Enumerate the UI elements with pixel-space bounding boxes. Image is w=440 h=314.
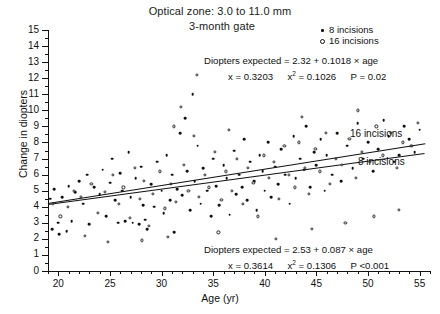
x-tick-minor [172,271,173,274]
data-point [278,197,281,200]
data-point [235,193,238,196]
data-point [158,170,161,173]
data-point [197,195,200,198]
data-point [51,228,54,231]
data-point [142,204,145,207]
y-tick-label: 4 [33,200,39,212]
data-point [372,170,375,173]
data-point [325,154,328,157]
data-point [148,224,151,227]
x-tick-minor [347,271,348,274]
data-point [308,192,311,195]
data-point [53,188,56,191]
y-tick: 15 [42,30,48,31]
x-tick-minor [224,271,225,274]
data-point [313,151,316,154]
data-point [203,173,206,176]
data-point [270,196,273,199]
title-line-1: Optical zone: 3.0 to 11.0 mm [0,4,440,19]
data-point [127,151,130,154]
y-tick-minor [45,183,49,184]
y-tick: 3 [42,223,48,224]
data-point [294,176,297,179]
data-point [267,176,270,179]
data-point [416,122,419,125]
y-tick-minor [45,86,49,87]
data-point [214,151,217,154]
y-tick-minor [45,70,49,71]
data-point [263,189,266,192]
data-point [222,164,225,167]
y-tick-minor [45,151,49,152]
data-point [242,202,245,205]
x-tick-label: 20 [53,278,64,289]
data-point [408,138,411,141]
data-point [403,125,406,128]
data-point [249,160,252,163]
y-tick-minor [45,38,49,39]
data-point [288,202,291,205]
data-point [341,163,344,166]
x-tick-minor [131,271,132,274]
data-point [206,189,209,192]
x-tick-minor [409,271,410,274]
data-point [273,160,276,163]
data-point [186,170,189,173]
data-point [150,183,153,186]
data-point [277,183,280,186]
data-point [173,231,176,234]
data-point [382,119,385,122]
data-point [129,196,132,199]
data-point [163,207,166,210]
data-point [172,125,175,128]
x-tick [368,271,369,276]
data-point [131,221,134,224]
data-point [344,221,347,224]
x-tick-minor [203,271,204,274]
y-tick: 8 [42,142,48,143]
data-point [318,170,321,173]
data-point [162,212,165,215]
data-point [235,157,238,160]
y-tick-label: 8 [33,136,39,148]
data-point [187,189,190,192]
y-tick-label: 10 [28,104,39,116]
data-point [207,186,210,189]
data-point [109,181,112,184]
data-point [202,167,205,170]
x-tick [110,271,111,276]
data-point [142,179,145,182]
data-point [183,163,186,166]
y-tick: 10 [42,110,48,111]
y-tick-label: 13 [28,56,39,68]
x-tick-minor [296,271,297,274]
data-point [220,199,223,202]
data-point [65,229,68,232]
x-tick-label: 35 [208,278,219,289]
data-point [241,186,244,189]
data-point [280,148,283,151]
data-point [66,205,69,208]
y-tick: 5 [42,191,48,192]
data-point [174,200,177,203]
data-point [324,131,327,134]
data-point [299,157,302,160]
data-point [90,183,93,186]
x-tick-minor [327,271,328,274]
data-point [138,197,141,200]
data-point [96,212,99,215]
data-point [176,188,179,191]
data-point [189,209,192,212]
y-tick-label: 2 [33,232,39,244]
data-point [255,209,258,212]
data-point [134,176,137,179]
data-point [300,115,303,118]
plot-area: 01234567891011121314152025303540455055 [48,30,430,272]
x-tick [420,271,421,276]
data-point [104,215,107,218]
data-point [305,125,308,128]
data-point [168,199,171,202]
y-axis [48,30,49,272]
data-point [354,176,357,179]
data-point [84,234,87,237]
